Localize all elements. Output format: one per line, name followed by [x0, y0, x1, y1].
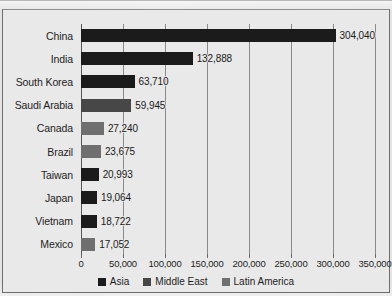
legend-swatch-icon: [98, 278, 106, 286]
value-tick-label: 200,000: [233, 258, 266, 269]
category-axis-labels: ChinaIndiaSouth KoreaSaudi ArabiaCanadaB…: [3, 24, 77, 256]
chart-frame: ChinaIndiaSouth KoreaSaudi ArabiaCanadaB…: [2, 9, 390, 293]
legend-item-asia[interactable]: Asia: [98, 276, 129, 287]
bar-row: 27,240: [81, 117, 375, 140]
bar[interactable]: [81, 191, 97, 204]
gridline: [375, 24, 376, 256]
legend-swatch-icon: [222, 278, 230, 286]
bar-value-label: 63,710: [139, 76, 169, 87]
value-axis-labels: 050,000100,000150,000200,000250,000300,0…: [81, 258, 375, 272]
bar-row: 17,052: [81, 233, 375, 256]
bar-value-label: 17,052: [99, 239, 129, 250]
bar[interactable]: [81, 168, 99, 181]
bar-row: 23,675: [81, 140, 375, 163]
bar-value-label: 19,064: [101, 192, 131, 203]
bar[interactable]: [81, 29, 336, 42]
bar-value-label: 20,993: [103, 169, 133, 180]
bar-value-label: 304,040: [340, 30, 375, 41]
category-label-south-korea: South Korea: [16, 70, 73, 93]
legend-label: Asia: [110, 276, 129, 287]
plot-area: 304,040132,88863,71059,94527,24023,67520…: [81, 24, 375, 256]
bar-value-label: 23,675: [105, 146, 135, 157]
category-label-japan: Japan: [45, 186, 73, 209]
bar[interactable]: [81, 52, 193, 65]
bar[interactable]: [81, 238, 95, 251]
category-label-mexico: Mexico: [40, 233, 73, 256]
bar[interactable]: [81, 99, 131, 112]
bar-row: 304,040: [81, 24, 375, 47]
legend-label: Middle East: [155, 276, 207, 287]
category-label-china: China: [46, 24, 73, 47]
bar-value-label: 59,945: [135, 100, 165, 111]
bar-row: 20,993: [81, 163, 375, 186]
bar-value-label: 132,888: [197, 53, 232, 64]
legend-swatch-icon: [143, 278, 151, 286]
category-label-india: India: [51, 47, 73, 70]
category-label-saudi-arabia: Saudi Arabia: [15, 94, 73, 117]
value-tick-label: 150,000: [191, 258, 224, 269]
value-tick-label: 300,000: [317, 258, 350, 269]
value-tick-label: 0: [78, 258, 83, 269]
bar-row: 59,945: [81, 94, 375, 117]
bar[interactable]: [81, 75, 135, 88]
legend: AsiaMiddle EastLatin America: [3, 276, 389, 287]
category-label-brazil: Brazil: [47, 140, 73, 163]
bar-row: 18,722: [81, 210, 375, 233]
bar[interactable]: [81, 215, 97, 228]
bar-series: 304,040132,88863,71059,94527,24023,67520…: [81, 24, 375, 256]
value-tick-label: 350,000: [359, 258, 392, 269]
legend-item-middle-east[interactable]: Middle East: [143, 276, 207, 287]
legend-item-latin-america[interactable]: Latin America: [222, 276, 295, 287]
bar-row: 132,888: [81, 47, 375, 70]
value-tick-label: 250,000: [275, 258, 308, 269]
bar[interactable]: [81, 145, 101, 158]
category-label-canada: Canada: [37, 117, 73, 140]
category-label-vietnam: Vietnam: [35, 210, 73, 233]
value-tick-label: 50,000: [109, 258, 137, 269]
legend-label: Latin America: [234, 276, 295, 287]
value-tick-label: 100,000: [149, 258, 182, 269]
bar-value-label: 18,722: [101, 216, 131, 227]
bar-row: 63,710: [81, 70, 375, 93]
bar-value-label: 27,240: [108, 123, 138, 134]
category-label-taiwan: Taiwan: [41, 163, 73, 186]
bar[interactable]: [81, 122, 104, 135]
bar-row: 19,064: [81, 186, 375, 209]
figure: ChinaIndiaSouth KoreaSaudi ArabiaCanadaB…: [0, 0, 392, 296]
